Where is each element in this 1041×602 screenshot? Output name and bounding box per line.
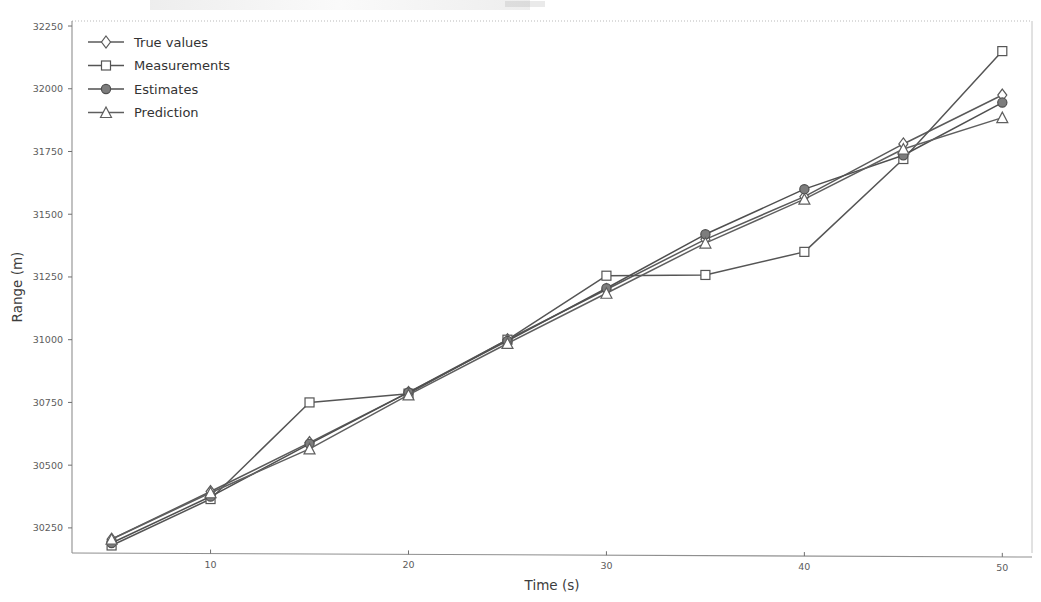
marker-square	[102, 61, 111, 70]
legend-entry-measurements: Measurements	[88, 58, 230, 73]
y-tick-label: 31500	[33, 209, 63, 220]
line-chart-svg: 3025030500307503100031250315003175032000…	[0, 0, 1041, 602]
series-measurements	[107, 47, 1007, 550]
y-tick-label: 30250	[33, 522, 63, 533]
marker-circle	[101, 84, 110, 93]
y-tick-label: 30500	[33, 460, 63, 471]
x-tick-label: 50	[996, 562, 1008, 573]
y-axis-title: Range (m)	[9, 252, 25, 323]
marker-square	[800, 247, 809, 256]
marker-triangle	[997, 112, 1008, 123]
y-tick-label: 31750	[33, 146, 63, 157]
y-tick-label: 31250	[33, 271, 63, 282]
chart-figure: 3025030500307503100031250315003175032000…	[0, 0, 1041, 602]
x-tick-label: 30	[600, 560, 612, 571]
axis-titles: Time (s)Range (m)	[9, 252, 579, 593]
y-tick-label: 30750	[33, 397, 63, 408]
axes: 3025030500307503100031250315003175032000…	[33, 21, 1032, 573]
series-line	[112, 51, 1003, 545]
legend-entry-true-values: True values	[88, 35, 208, 50]
series-line	[112, 118, 1003, 540]
marker-diamond	[102, 36, 111, 48]
marker-square	[998, 47, 1007, 56]
series-prediction	[106, 112, 1008, 544]
legend-label: Measurements	[134, 58, 230, 73]
marker-circle	[800, 185, 809, 194]
x-tick-label: 40	[798, 561, 810, 572]
y-tick-label: 32000	[33, 83, 63, 94]
x-tick-label: 10	[205, 559, 217, 570]
x-axis-title: Time (s)	[524, 577, 580, 593]
data-series	[106, 47, 1008, 550]
legend-entry-estimates: Estimates	[88, 82, 198, 97]
marker-square	[701, 270, 710, 279]
y-tick-label: 32250	[33, 21, 63, 32]
x-axis-line	[72, 553, 1032, 557]
series-true-values	[107, 89, 1007, 545]
marker-circle	[998, 98, 1007, 107]
y-tick-label: 31000	[33, 334, 63, 345]
chart-legend: True valuesMeasurementsEstimatesPredicti…	[88, 35, 230, 121]
x-tick-label: 20	[402, 559, 414, 570]
marker-square	[602, 271, 611, 280]
legend-label: Estimates	[134, 82, 198, 97]
marker-square	[305, 398, 314, 407]
legend-entry-prediction: Prediction	[88, 105, 199, 120]
series-line	[112, 95, 1003, 539]
legend-label: True values	[133, 35, 208, 50]
legend-label: Prediction	[134, 105, 199, 120]
